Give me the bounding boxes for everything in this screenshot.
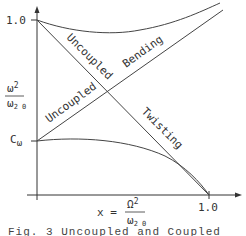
x-axis-arrow-icon [235,193,242,198]
coupled-lower-curve [37,139,209,195]
svg-text:Ω2: Ω2 [127,197,139,211]
figure-caption: Fig. 3 Uncoupled and Coupled [8,226,221,236]
y-tick-label-top: 1.0 [6,14,26,27]
annotation-bending: Bending [120,33,165,71]
coupled-upper-curve [37,3,220,33]
annotation-uncoupled-twisting-upper: Uncoupled [64,31,115,82]
x-axis-label: x = Ω2 ω2 0 [97,197,146,228]
y-axis-arrow-icon [35,6,40,13]
svg-text:ω2: ω2 [7,81,19,95]
y-tick-label-c: Cω [10,133,23,148]
annotation-twisting: Twisting [139,105,186,152]
chart: 1.0 Cω 1.0 ω2 ω2 0 x = Ω2 ω2 0 Uncoupled… [0,0,246,236]
y-axis-label: ω2 ω2 0 [5,81,26,111]
svg-text:ω2 0: ω2 0 [7,97,26,111]
bending-line [37,10,223,141]
svg-text:x =: x = [97,206,117,219]
x-tick-label: 1.0 [198,201,218,214]
